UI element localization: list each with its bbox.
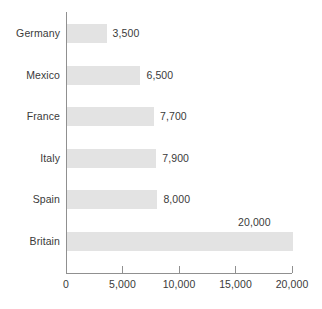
bar-value-label: 6,500 — [146, 69, 173, 81]
bar-row: Germany3,500 — [0, 24, 322, 43]
category-label: France — [27, 110, 60, 122]
category-label: Germany — [16, 27, 60, 39]
category-label: Britain — [30, 235, 60, 247]
bar-row: Mexico6,500 — [0, 66, 322, 85]
bar[interactable] — [67, 149, 156, 168]
bar-value-label: 8,000 — [163, 193, 190, 205]
bar-row: France7,700 — [0, 107, 322, 126]
category-label: Spain — [33, 193, 60, 205]
bar[interactable] — [67, 232, 293, 251]
bar[interactable] — [67, 190, 157, 209]
bar-row: Britain20,000 — [0, 232, 322, 251]
bar-value-label: 7,900 — [162, 152, 189, 164]
category-label: Italy — [40, 152, 60, 164]
bar-value-label: 7,700 — [160, 110, 187, 122]
bar-value-label: 3,500 — [113, 27, 140, 39]
bars-layer: Germany3,500Mexico6,500France7,700Italy7… — [0, 0, 322, 309]
category-label: Mexico — [26, 69, 60, 81]
bar[interactable] — [67, 66, 140, 85]
bar-chart: 05,00010,00015,00020,000 Germany3,500Mex… — [0, 0, 322, 309]
bar[interactable] — [67, 107, 154, 126]
bar[interactable] — [67, 24, 107, 43]
bar-row: Spain8,000 — [0, 190, 322, 209]
bar-row: Italy7,900 — [0, 149, 322, 168]
bar-value-label: 20,000 — [238, 216, 271, 228]
